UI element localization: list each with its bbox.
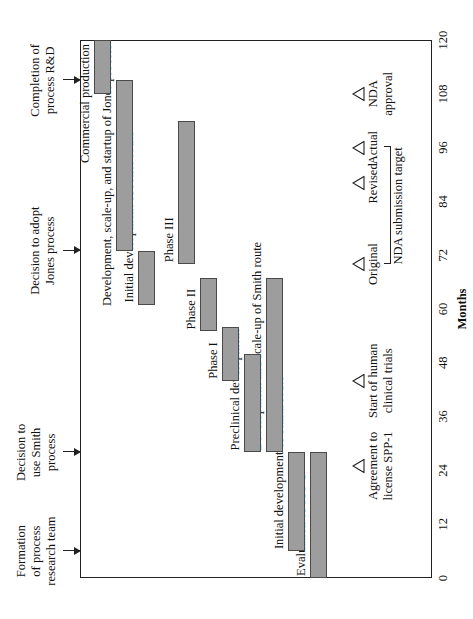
x-tick-label: 96 [436, 141, 451, 154]
nda-submission-bracket [384, 146, 391, 265]
x-tick-label: 72 [436, 249, 451, 262]
x-axis: 01224364860728496108120 Months [432, 40, 472, 578]
milestone-triangle-label: Original [366, 243, 381, 285]
gantt-bar-label: Phase II [185, 289, 198, 330]
nda-submission-bracket-label: NDA submission target [391, 147, 406, 264]
x-tick-label: 24 [436, 464, 451, 477]
x-tick-label: 60 [436, 303, 451, 316]
gantt-bar [266, 278, 283, 453]
gantt-bar [94, 40, 111, 94]
gantt-bar [116, 80, 133, 250]
milestone-triangle-label: Agreement tolicense SPP-1 [366, 431, 396, 500]
milestone-triangle-icon [352, 176, 365, 191]
x-tick-label: 108 [436, 84, 451, 103]
x-tick-label: 120 [436, 31, 451, 50]
x-tick-label: 12 [436, 518, 451, 531]
milestone-triangle-label: Actual [366, 131, 381, 164]
gantt-bar [288, 452, 305, 551]
gantt-bar [178, 121, 195, 264]
gantt-bar [138, 251, 155, 305]
x-tick-label: 48 [436, 357, 451, 370]
x-tick-label: 84 [436, 195, 451, 208]
gantt-bar-label: Phase I [207, 342, 220, 378]
milestone-arrow-icon [63, 250, 80, 251]
milestone-arrow-label: Completion ofprocess R&D [28, 44, 58, 117]
gantt-bar-label: Commercial production [79, 44, 92, 163]
milestone-arrow-icon [63, 79, 80, 80]
milestone-arrow-icon [63, 550, 80, 551]
milestone-triangle-label: Revised [366, 163, 381, 203]
gantt-bar [310, 452, 327, 578]
rotated-chart-stage: Evaluation of SPP-1Initial development o… [0, 0, 473, 619]
milestone-triangle-icon [352, 458, 365, 473]
milestone-triangle-label: NDAapproval [366, 72, 396, 116]
x-tick-label: 36 [436, 410, 451, 423]
gantt-bar [244, 354, 261, 453]
chart-canvas: Evaluation of SPP-1Initial development o… [0, 0, 473, 619]
milestone-arrow-label: Formationof processresearch team [14, 517, 58, 586]
milestone-arrow-icon [63, 451, 80, 452]
x-tick-label: 0 [436, 575, 451, 581]
gantt-bar [222, 327, 239, 381]
milestone-triangle-label: Start of humanclinical trials [366, 344, 396, 418]
milestone-triangle-icon [352, 86, 365, 101]
gantt-bar-label: Phase III [163, 217, 176, 262]
milestone-arrow-label: Decision touse Smithprocess [14, 424, 58, 481]
gantt-bar [200, 278, 217, 332]
milestone-triangle-icon [352, 140, 365, 155]
milestone-arrow-label: Decision to adoptJones process [28, 207, 58, 295]
milestone-triangle-icon [352, 373, 365, 388]
x-axis-title: Months [455, 289, 470, 330]
milestone-triangle-icon [352, 257, 365, 272]
